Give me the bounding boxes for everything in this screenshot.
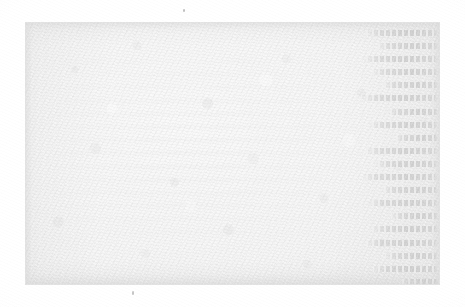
showthrough-line	[365, 148, 438, 154]
showthrough-line	[388, 109, 438, 115]
showthrough-line	[362, 174, 438, 180]
showthrough-line	[369, 122, 438, 128]
paper-sheet	[25, 22, 440, 285]
paper-grain-texture	[25, 22, 440, 285]
verso-showthrough-text-column	[360, 30, 438, 285]
showthrough-line	[382, 187, 438, 193]
showthrough-line	[368, 200, 438, 206]
verso-showthrough-haze	[50, 59, 365, 243]
showthrough-line	[391, 213, 438, 219]
paper-mottle-texture	[25, 22, 440, 285]
scanned-page-viewport	[0, 0, 465, 307]
showthrough-line	[377, 43, 438, 49]
showthrough-line	[363, 56, 438, 62]
showthrough-line	[375, 161, 438, 167]
showthrough-line	[372, 69, 438, 75]
paper-illumination-shading	[25, 22, 440, 285]
showthrough-line	[366, 30, 438, 36]
showthrough-line	[383, 82, 438, 88]
showthrough-line	[371, 226, 438, 232]
showthrough-line	[395, 135, 438, 141]
showthrough-line	[361, 95, 438, 101]
showthrough-line	[401, 279, 438, 285]
paper-edge-shadow	[25, 22, 440, 285]
showthrough-line	[385, 253, 438, 259]
showthrough-line	[365, 240, 438, 246]
showthrough-line	[373, 266, 438, 272]
